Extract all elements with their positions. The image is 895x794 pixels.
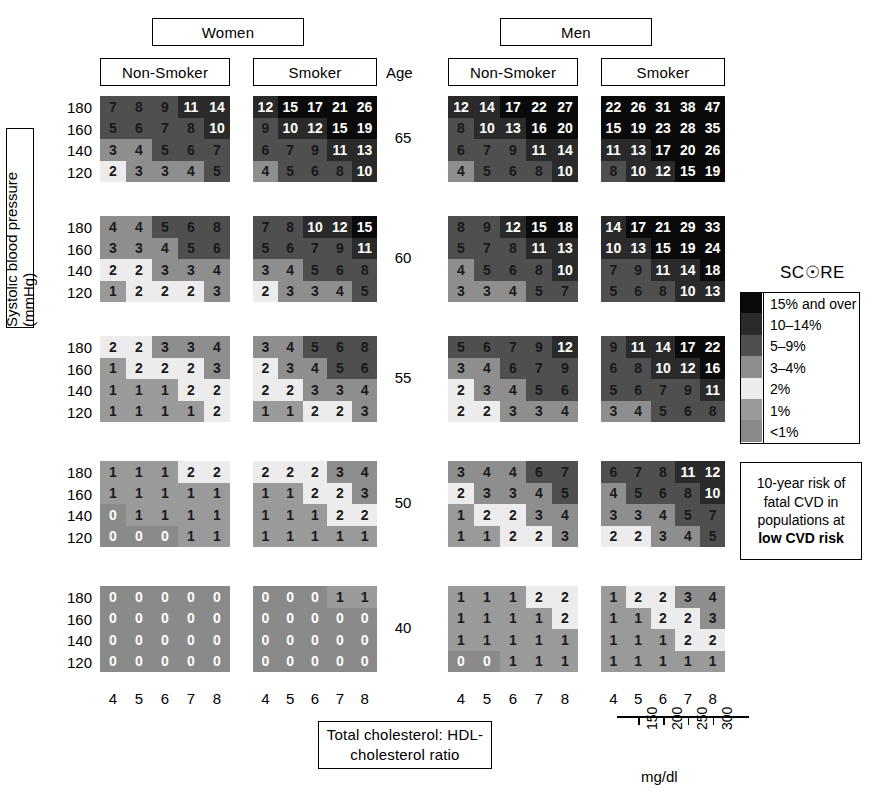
mgdl-tick bbox=[638, 716, 640, 725]
risk-cell: 4 bbox=[100, 216, 126, 238]
risk-cell: 4 bbox=[352, 379, 377, 401]
risk-cell: 1 bbox=[152, 401, 178, 423]
risk-cell: 1 bbox=[474, 586, 500, 608]
risk-cell: 1 bbox=[352, 586, 377, 608]
risk-cell: 0 bbox=[100, 608, 126, 630]
risk-cell: 24 bbox=[700, 238, 725, 260]
risk-cell: 22 bbox=[601, 96, 626, 118]
risk-cell: 3 bbox=[675, 586, 700, 608]
risk-cell: 3 bbox=[253, 259, 278, 281]
chol-tick-label: 8 bbox=[557, 690, 573, 707]
risk-cell: 8 bbox=[126, 96, 152, 118]
risk-cell: 21 bbox=[651, 216, 676, 238]
risk-cell: 2 bbox=[626, 586, 651, 608]
risk-cell: 1 bbox=[327, 586, 352, 608]
risk-cell: 9 bbox=[253, 118, 278, 140]
risk-cell: 7 bbox=[253, 216, 278, 238]
risk-cell: 8 bbox=[448, 216, 474, 238]
risk-cell: 2 bbox=[651, 586, 676, 608]
header-men-smoker-label: Smoker bbox=[637, 64, 690, 81]
risk-cell: 7 bbox=[474, 238, 500, 260]
risk-cell: 1 bbox=[178, 401, 204, 423]
risk-cell: 1 bbox=[204, 504, 230, 526]
risk-cell: 8 bbox=[352, 259, 377, 281]
risk-cell: 3 bbox=[448, 461, 474, 483]
risk-cell: 4 bbox=[700, 586, 725, 608]
risk-cell: 1 bbox=[100, 401, 126, 423]
risk-cell: 5 bbox=[100, 118, 126, 140]
legend-swatch bbox=[740, 356, 762, 377]
risk-cell: 8 bbox=[675, 483, 700, 505]
risk-cell: 38 bbox=[675, 96, 700, 118]
risk-cell: 5 bbox=[626, 483, 651, 505]
risk-cell: 9 bbox=[626, 259, 651, 281]
sbp-tick-label: 140 bbox=[58, 262, 92, 279]
risk-cell: 17 bbox=[651, 139, 676, 161]
risk-cell: 14 bbox=[552, 139, 578, 161]
risk-cell: 1 bbox=[178, 526, 204, 548]
risk-cell: 1 bbox=[178, 504, 204, 526]
risk-cell: 1 bbox=[303, 526, 328, 548]
risk-cell: 5 bbox=[303, 259, 328, 281]
risk-cell: 12 bbox=[303, 118, 328, 140]
risk-cell: 1 bbox=[253, 526, 278, 548]
panel-women-smoker-age60: 781012155679113456823345 bbox=[253, 216, 377, 302]
risk-cell: 13 bbox=[626, 139, 651, 161]
risk-cell: 7 bbox=[474, 139, 500, 161]
risk-cell: 3 bbox=[100, 139, 126, 161]
risk-cell: 2 bbox=[500, 504, 526, 526]
risk-cell: 2 bbox=[500, 526, 526, 548]
risk-cell: 0 bbox=[100, 586, 126, 608]
mgdl-unit-text: mg/dl bbox=[641, 768, 678, 785]
risk-cell: 2 bbox=[126, 336, 152, 358]
sbp-tick-label: 160 bbox=[58, 611, 92, 628]
risk-cell: 13 bbox=[626, 238, 651, 260]
risk-cell: 0 bbox=[474, 651, 500, 673]
risk-cell: 0 bbox=[303, 586, 328, 608]
mgdl-tick-label: 200 bbox=[669, 707, 685, 730]
risk-cell: 10 bbox=[552, 161, 578, 183]
age-tick-label: 60 bbox=[388, 249, 418, 266]
risk-cell: 1 bbox=[152, 483, 178, 505]
panel-women-nonsmoker-age60: 44568334562233412223 bbox=[100, 216, 230, 302]
sbp-tick-label: 140 bbox=[58, 382, 92, 399]
risk-cell: 8 bbox=[651, 281, 676, 303]
risk-cell: 3 bbox=[352, 483, 377, 505]
risk-cell: 7 bbox=[651, 379, 676, 401]
risk-cell: 0 bbox=[278, 608, 303, 630]
risk-cell: 28 bbox=[675, 118, 700, 140]
mgdl-unit-label: mg/dl bbox=[641, 768, 678, 785]
risk-cell: 1 bbox=[601, 586, 626, 608]
risk-cell: 4 bbox=[204, 259, 230, 281]
header-women: Women bbox=[152, 18, 304, 46]
risk-cell: 9 bbox=[474, 216, 500, 238]
risk-cell: 2 bbox=[626, 526, 651, 548]
risk-cell: 1 bbox=[100, 483, 126, 505]
risk-cell: 2 bbox=[303, 483, 328, 505]
sbp-tick-label: 160 bbox=[58, 241, 92, 258]
panel-men-nonsmoker-age40: 11122111121111100111 bbox=[448, 586, 578, 672]
risk-cell: 12 bbox=[552, 336, 578, 358]
risk-cell: 3 bbox=[278, 281, 303, 303]
panel-men-smoker-age55: 9111417226810121656791134568 bbox=[601, 336, 725, 422]
header-women-smoker-label: Smoker bbox=[289, 64, 342, 81]
risk-cell: 6 bbox=[278, 238, 303, 260]
risk-cell: 7 bbox=[552, 281, 578, 303]
risk-cell: 0 bbox=[303, 629, 328, 651]
chol-tick-label: 6 bbox=[157, 690, 173, 707]
panel-women-nonsmoker-age65: 78911145678103456723345 bbox=[100, 96, 230, 182]
legend-swatch bbox=[740, 335, 762, 356]
risk-cell: 6 bbox=[448, 139, 474, 161]
risk-cell: 5 bbox=[651, 401, 676, 423]
risk-cell: 12 bbox=[327, 216, 352, 238]
risk-cell: 5 bbox=[675, 504, 700, 526]
risk-cell: 3 bbox=[474, 483, 500, 505]
risk-cell: 1 bbox=[100, 281, 126, 303]
risk-cell: 4 bbox=[204, 336, 230, 358]
risk-cell: 1 bbox=[700, 651, 725, 673]
risk-cell: 1 bbox=[448, 608, 474, 630]
risk-cell: 5 bbox=[178, 238, 204, 260]
chol-tick-label: 6 bbox=[505, 690, 521, 707]
risk-cell: 15 bbox=[601, 118, 626, 140]
risk-cell: 2 bbox=[675, 629, 700, 651]
